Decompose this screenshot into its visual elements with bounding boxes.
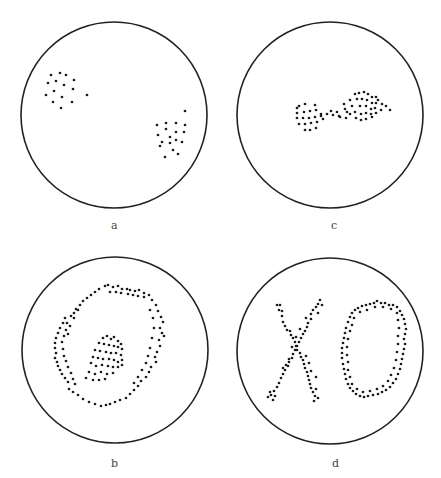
- dot: [94, 403, 97, 406]
- dot: [355, 117, 358, 120]
- dot: [341, 357, 344, 360]
- dot: [395, 378, 398, 381]
- dot: [342, 363, 345, 366]
- dot: [365, 304, 368, 307]
- dot: [97, 357, 100, 360]
- dot: [306, 326, 309, 329]
- dot: [298, 123, 301, 126]
- dot: [282, 321, 285, 324]
- dot: [145, 376, 148, 379]
- dot: [115, 291, 118, 294]
- dot: [405, 328, 408, 331]
- dot: [68, 388, 71, 391]
- dot: [90, 362, 93, 365]
- dot: [292, 337, 295, 340]
- dot: [94, 349, 97, 352]
- dot: [286, 329, 289, 332]
- dot: [270, 394, 273, 397]
- dot: [315, 127, 318, 130]
- dot: [377, 99, 380, 102]
- dot: [326, 113, 329, 116]
- dot: [342, 342, 345, 345]
- dot: [153, 327, 156, 330]
- dot: [343, 368, 346, 371]
- dot: [105, 404, 108, 407]
- dot: [272, 399, 275, 402]
- dot: [309, 110, 312, 113]
- dot: [137, 295, 140, 298]
- dot: [307, 375, 310, 378]
- dot: [343, 337, 346, 340]
- dot: [61, 96, 64, 99]
- dot: [110, 338, 113, 341]
- dot: [120, 343, 123, 346]
- dot: [99, 350, 102, 353]
- dot: [113, 359, 116, 362]
- dot: [313, 400, 316, 403]
- dot: [308, 362, 311, 365]
- dot: [284, 325, 287, 328]
- dot: [351, 312, 354, 315]
- dot: [63, 355, 66, 358]
- dot: [55, 80, 58, 83]
- dot: [145, 362, 148, 365]
- dot: [269, 391, 272, 394]
- dot: [133, 382, 136, 385]
- dot: [349, 113, 352, 116]
- panel-a-circle: [21, 22, 207, 208]
- dot: [349, 330, 352, 333]
- figure-canvas: acbd: [0, 0, 441, 478]
- dot: [121, 359, 124, 362]
- dot: [310, 122, 313, 125]
- dot: [396, 351, 399, 354]
- dot: [53, 90, 56, 93]
- dot: [359, 311, 362, 314]
- dot: [273, 390, 276, 393]
- dot: [352, 390, 355, 393]
- dot: [360, 119, 363, 122]
- dot: [59, 72, 62, 75]
- dot: [267, 396, 270, 399]
- dot: [71, 101, 74, 104]
- dot: [365, 112, 368, 115]
- dot: [88, 401, 91, 404]
- dot: [397, 335, 400, 338]
- dot: [88, 371, 91, 374]
- dot: [376, 300, 379, 303]
- dot: [140, 380, 143, 383]
- dot: [363, 91, 366, 94]
- dot: [309, 383, 312, 386]
- dot: [276, 304, 279, 307]
- dot: [291, 357, 294, 360]
- dot: [339, 116, 342, 119]
- dot: [400, 363, 403, 366]
- dot: [104, 378, 107, 381]
- dot: [77, 394, 80, 397]
- dot: [367, 93, 370, 96]
- dot: [100, 405, 103, 408]
- dot: [302, 333, 305, 336]
- dot: [314, 104, 317, 107]
- dot: [132, 294, 135, 297]
- dot: [304, 123, 307, 126]
- dot: [65, 329, 68, 332]
- panel-a-label: a: [111, 219, 118, 232]
- dot: [129, 393, 132, 396]
- dot: [351, 324, 354, 327]
- dot: [70, 315, 73, 318]
- dot: [376, 388, 379, 391]
- dot: [346, 111, 349, 114]
- dot: [322, 118, 325, 121]
- dot: [154, 356, 157, 359]
- dot: [347, 361, 350, 364]
- dot: [310, 387, 313, 390]
- dot: [158, 339, 161, 342]
- dot: [79, 304, 82, 307]
- dot: [377, 393, 380, 396]
- dot: [354, 309, 357, 312]
- dot: [395, 359, 398, 362]
- dot: [169, 136, 172, 139]
- dot: [308, 379, 311, 382]
- dot: [310, 313, 313, 316]
- dot: [112, 366, 115, 369]
